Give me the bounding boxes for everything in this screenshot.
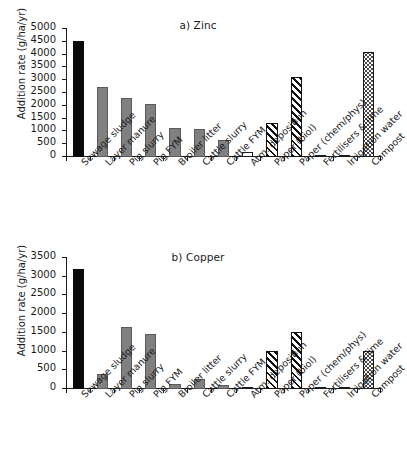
y-tick-label-3500: 3500 (31, 59, 56, 70)
y-tick-label-3000: 3000 (31, 269, 56, 280)
y-tick-label-3000: 3000 (31, 72, 56, 83)
bar-sewage-sludge (73, 269, 84, 389)
y-tick-3500: 3500 (62, 66, 67, 67)
y-tick-500: 500 (62, 369, 67, 370)
y-axis-label-zinc: Addition rate (g/ha/yr) (16, 0, 27, 128)
bar-sewage-sludge (73, 41, 84, 157)
y-tick-label-2000: 2000 (31, 306, 56, 317)
y-axis-line-zinc (66, 29, 67, 157)
y-tick-2000: 2000 (62, 105, 67, 106)
chart-panel-copper: b) Copper Addition rate (g/ha/yr) 050010… (0, 233, 396, 466)
y-tick-label-1000: 1000 (31, 123, 56, 134)
x-axis-category-labels-zinc: Sewage sludgeLayer manurePig slurryPig F… (66, 160, 396, 233)
y-tick-label-500: 500 (37, 362, 56, 373)
y-tick-label-2500: 2500 (31, 287, 56, 298)
y-tick-label-0: 0 (50, 381, 56, 392)
y-tick-label-1000: 1000 (31, 344, 56, 355)
y-tick-label-1500: 1500 (31, 325, 56, 336)
y-tick-label-500: 500 (37, 136, 56, 147)
y-tick-label-0: 0 (50, 149, 56, 160)
x-axis-category-labels-copper: Sewage sludgeLayer manurePig slurryPig F… (66, 392, 396, 465)
y-tick-1000: 1000 (62, 130, 67, 131)
y-tick-1500: 1500 (62, 118, 67, 119)
y-tick-2500: 2500 (62, 92, 67, 93)
y-tick-2000: 2000 (62, 313, 67, 314)
y-tick-500: 500 (62, 143, 67, 144)
y-tick-1500: 1500 (62, 332, 67, 333)
chart-panel-zinc: a) Zinc Addition rate (g/ha/yr) 05001000… (0, 0, 396, 233)
y-tick-label-1500: 1500 (31, 111, 56, 122)
y-tick-3000: 3000 (62, 276, 67, 277)
y-tick-label-2500: 2500 (31, 85, 56, 96)
y-tick-3000: 3000 (62, 79, 67, 80)
y-tick-label-4500: 4500 (31, 34, 56, 45)
y-tick-3500: 3500 (62, 257, 67, 258)
y-axis-label-copper: Addition rate (g/ha/yr) (16, 237, 27, 365)
y-tick-label-4000: 4000 (31, 47, 56, 58)
y-tick-label-2000: 2000 (31, 98, 56, 109)
y-tick-4000: 4000 (62, 54, 67, 55)
y-tick-label-3500: 3500 (31, 250, 56, 261)
y-tick-1000: 1000 (62, 351, 67, 352)
y-tick-4500: 4500 (62, 41, 67, 42)
y-tick-label-5000: 5000 (31, 21, 56, 32)
y-tick-2500: 2500 (62, 294, 67, 295)
y-tick-5000: 5000 (62, 28, 67, 29)
